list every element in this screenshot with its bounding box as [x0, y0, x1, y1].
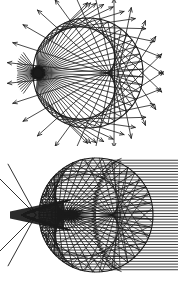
exit-ray-arrowhead	[131, 8, 132, 12]
panel-parallel-beam-caustic	[0, 146, 178, 292]
exit-ray-arrowhead	[150, 103, 154, 104]
reflected-chord-ray	[42, 102, 82, 127]
top-panel-group	[8, 0, 164, 146]
exit-ray	[90, 7, 114, 18]
exit-ray-arrowhead	[8, 83, 12, 84]
exit-ray	[13, 95, 38, 103]
cusp-whisker-ray	[8, 215, 36, 266]
second-reflected-chord-ray	[41, 232, 94, 272]
source-blob-core	[34, 69, 43, 78]
exit-ray-arrowhead	[131, 134, 132, 138]
exit-ray	[13, 43, 38, 51]
panel-point-source-reflection	[0, 0, 178, 146]
ray-tracing-figure	[0, 0, 178, 292]
exit-ray	[23, 25, 46, 38]
exit-ray-arrowhead	[131, 127, 135, 128]
exit-ray	[38, 118, 57, 135]
exit-ray	[141, 72, 163, 86]
exit-ray	[109, 124, 135, 128]
exit-ray	[99, 11, 124, 19]
cusp-whisker-ray	[8, 164, 36, 215]
exit-ray	[99, 127, 124, 135]
exit-ray-arrowhead	[131, 17, 135, 18]
exit-ray	[120, 117, 146, 118]
exit-ray	[38, 10, 57, 27]
caustic-cusp-wedge	[10, 200, 64, 230]
exit-ray	[135, 101, 145, 125]
exit-ray-arrowhead	[8, 61, 12, 62]
exit-ray-arrowhead	[120, 11, 124, 12]
exit-ray	[141, 88, 156, 109]
second-reflected-chord-ray	[41, 158, 94, 198]
exit-ray	[90, 128, 114, 139]
exit-ray	[23, 108, 46, 121]
parallel-beam-caustic-svg	[0, 146, 178, 292]
incident-ray	[38, 29, 121, 73]
bottom-panel-group	[0, 158, 178, 272]
exit-ray	[109, 19, 135, 23]
exit-ray	[135, 21, 145, 45]
exit-ray	[141, 60, 163, 74]
exit-ray	[55, 0, 70, 21]
exit-ray-arrowhead	[120, 135, 124, 136]
point-source-reflection-svg	[0, 0, 178, 146]
exit-ray	[55, 125, 70, 146]
exit-ray	[141, 37, 156, 58]
